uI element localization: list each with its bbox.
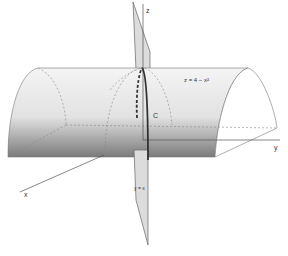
parabolic-cylinder-surface [8,68,277,157]
plane-label: y = x [134,185,145,191]
curve-c-label: C [153,112,158,119]
y-axis-label: y [274,144,278,152]
z-axis-label: z [146,7,150,14]
plane-lower [134,150,148,245]
surface-equation-label: z = 4 − x² [184,77,209,83]
cylinder-plane-diagram: z y x z = 4 − x² C y = x [0,0,288,256]
x-axis-label: x [24,191,28,198]
